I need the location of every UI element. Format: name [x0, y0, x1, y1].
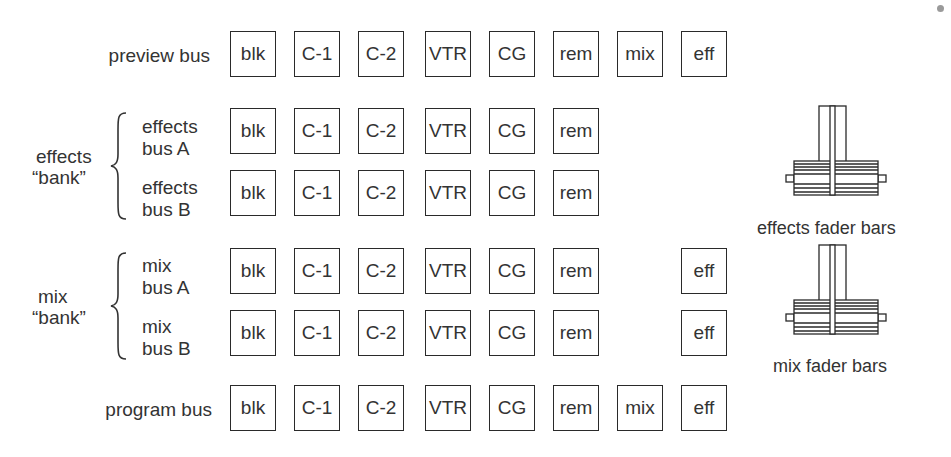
effects-b-button-vtr[interactable]: VTR — [425, 170, 471, 216]
mix-a-button-rem[interactable]: rem — [553, 248, 599, 294]
effects-fader-bar-icon[interactable] — [783, 104, 889, 214]
mix-fader-label: mix fader bars — [773, 356, 887, 377]
mix-bus-a-label-line2: bus A — [142, 277, 190, 299]
program-button-vtr[interactable]: VTR — [425, 385, 471, 431]
effects-bus-b-label-line1: effects — [142, 177, 198, 199]
effects-a-button-vtr[interactable]: VTR — [425, 108, 471, 154]
program-button-c-2[interactable]: C-2 — [358, 385, 404, 431]
mix-a-button-cg[interactable]: CG — [489, 248, 535, 294]
program-button-cg[interactable]: CG — [489, 385, 535, 431]
mix-b-button-rem[interactable]: rem — [553, 310, 599, 356]
effects-b-button-c-2[interactable]: C-2 — [358, 170, 404, 216]
effects-b-button-blk[interactable]: blk — [230, 170, 276, 216]
mix-bus-b-label-line1: mix — [142, 316, 172, 338]
program-button-blk[interactable]: blk — [230, 385, 276, 431]
mix-fader-bar-icon[interactable] — [783, 243, 889, 353]
effects-bus-a-label-line2: bus A — [142, 138, 190, 160]
mix-b-button-cg[interactable]: CG — [489, 310, 535, 356]
effects-fader-label: effects fader bars — [757, 218, 896, 239]
effects-a-button-cg[interactable]: CG — [489, 108, 535, 154]
mix-a-button-c-2[interactable]: C-2 — [358, 248, 404, 294]
preview-bus-label: preview bus — [60, 45, 210, 67]
program-button-eff[interactable]: eff — [681, 385, 727, 431]
mix-bank-label-line1: mix — [38, 286, 68, 308]
preview-button-c-1[interactable]: C-1 — [294, 31, 340, 77]
program-button-c-1[interactable]: C-1 — [294, 385, 340, 431]
program-button-rem[interactable]: rem — [553, 385, 599, 431]
effects-a-button-rem[interactable]: rem — [553, 108, 599, 154]
preview-button-mix[interactable]: mix — [617, 31, 663, 77]
mix-b-button-eff[interactable]: eff — [681, 310, 727, 356]
mix-a-button-eff[interactable]: eff — [681, 248, 727, 294]
effects-bank-label-line1: effects — [36, 146, 92, 168]
effects-b-button-c-1[interactable]: C-1 — [294, 170, 340, 216]
mix-a-button-vtr[interactable]: VTR — [425, 248, 471, 294]
mix-b-button-blk[interactable]: blk — [230, 310, 276, 356]
program-button-mix[interactable]: mix — [617, 385, 663, 431]
mix-b-button-vtr[interactable]: VTR — [425, 310, 471, 356]
effects-a-button-c-1[interactable]: C-1 — [294, 108, 340, 154]
mix-bank-brace-icon — [108, 250, 130, 362]
preview-button-eff[interactable]: eff — [681, 31, 727, 77]
program-bus-label: program bus — [60, 399, 212, 421]
mix-b-button-c-2[interactable]: C-2 — [358, 310, 404, 356]
preview-button-c-2[interactable]: C-2 — [358, 31, 404, 77]
mix-bank-label-line2: “bank” — [32, 307, 86, 329]
mix-bus-a-label-line1: mix — [142, 255, 172, 277]
scan-speck — [937, 5, 944, 12]
effects-bus-a-label-line1: effects — [142, 116, 198, 138]
mix-b-button-c-1[interactable]: C-1 — [294, 310, 340, 356]
preview-button-blk[interactable]: blk — [230, 31, 276, 77]
effects-bank-brace-icon — [108, 110, 130, 222]
effects-bank-label-line2: “bank” — [32, 167, 86, 189]
mix-bus-b-label-line2: bus B — [142, 338, 191, 360]
mix-a-button-c-1[interactable]: C-1 — [294, 248, 340, 294]
effects-bus-b-label-line2: bus B — [142, 199, 191, 221]
mix-a-button-blk[interactable]: blk — [230, 248, 276, 294]
preview-button-cg[interactable]: CG — [489, 31, 535, 77]
effects-b-button-cg[interactable]: CG — [489, 170, 535, 216]
preview-button-vtr[interactable]: VTR — [425, 31, 471, 77]
effects-a-button-blk[interactable]: blk — [230, 108, 276, 154]
effects-b-button-rem[interactable]: rem — [553, 170, 599, 216]
effects-a-button-c-2[interactable]: C-2 — [358, 108, 404, 154]
preview-button-rem[interactable]: rem — [553, 31, 599, 77]
